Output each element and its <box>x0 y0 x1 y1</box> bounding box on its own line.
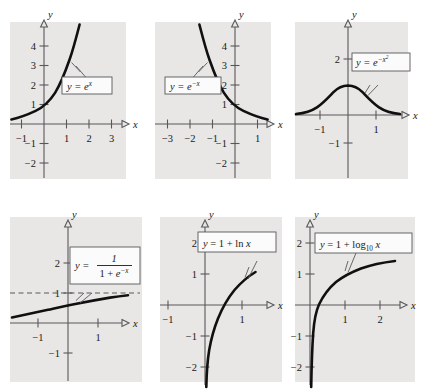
y-tick-label: 4 <box>222 41 228 52</box>
y-tick-label: −2 <box>216 158 227 169</box>
x-tick-label: −1 <box>314 124 325 135</box>
y-tick-label: −1 <box>291 331 302 342</box>
y-axis-label: y <box>313 209 319 220</box>
panel-5-plot: −1 1 2 1 −1 −2 x y y = 1 + ln x <box>145 195 290 391</box>
y-tick-label: −1 <box>49 348 60 359</box>
y-tick-label: −1 <box>329 138 340 149</box>
panel-1-plot: −1 1 2 3 −2 −1 1 2 3 4 x y y = ex <box>0 0 145 195</box>
function-label-logistic-lhs: y = <box>74 260 89 271</box>
y-tick-label: 1 <box>55 288 60 299</box>
y-tick-label: 1 <box>222 99 227 110</box>
y-tick-label: 3 <box>222 60 227 71</box>
x-axis-label: x <box>412 110 418 121</box>
x-axis-label: x <box>277 119 283 130</box>
x-axis-label: x <box>132 318 138 329</box>
x-tick-label: 3 <box>109 133 114 144</box>
y-tick-label: 2 <box>297 238 302 249</box>
figure-exponential-log-graphs: −1 1 2 3 −2 −1 1 2 3 4 x y y = ex <box>0 0 423 391</box>
y-tick-label: −1 <box>25 138 36 149</box>
y-tick-label: 2 <box>335 54 340 65</box>
panel-6-plot: 1 2 2 1 −1 −2 x y y = 1 + log10 x <box>290 195 423 391</box>
plot-background <box>10 217 142 382</box>
y-tick-label: 4 <box>31 41 37 52</box>
x-axis-label: x <box>277 300 283 311</box>
x-tick-label: −3 <box>162 133 173 144</box>
plot-background <box>155 22 271 179</box>
panel-exponential-negx: −3 −2 −1 1 −2 −1 1 2 3 4 x y y = e−x <box>145 0 290 195</box>
x-tick-label: 1 <box>239 314 244 325</box>
x-tick-label: 2 <box>86 133 91 144</box>
x-tick-label: 1 <box>64 133 69 144</box>
y-axis-label: y <box>238 9 244 20</box>
y-axis-label: y <box>208 209 214 220</box>
y-tick-label: −1 <box>216 138 227 149</box>
y-axis-label: y <box>47 9 53 20</box>
y-tick-label: 1 <box>192 269 197 280</box>
y-tick-label: −2 <box>186 362 197 373</box>
x-tick-label: 1 <box>373 124 378 135</box>
x-axis-label: x <box>132 119 138 130</box>
function-label-ln: y = 1 + ln x <box>202 238 251 249</box>
panel-natural-log: −1 1 2 1 −1 −2 x y y = 1 + ln x <box>145 195 290 391</box>
y-tick-label: −2 <box>291 362 302 373</box>
x-tick-label: −1 <box>32 332 43 343</box>
x-tick-label: 1 <box>95 332 100 343</box>
panel-2-plot: −3 −2 −1 1 −2 −1 1 2 3 4 x y y = e−x <box>145 0 290 195</box>
y-tick-label: −2 <box>25 158 36 169</box>
y-tick-label: 1 <box>297 269 302 280</box>
x-tick-label: 1 <box>255 133 260 144</box>
panel-log10: 1 2 2 1 −1 −2 x y y = 1 + log10 x <box>290 195 423 391</box>
y-tick-label: 2 <box>31 80 36 91</box>
x-tick-label: 1 <box>342 314 347 325</box>
y-tick-label: 2 <box>192 238 197 249</box>
y-axis-label: y <box>351 9 357 20</box>
panel-4-plot: −1 1 2 1 −1 x y y = 1 1 + e−x <box>0 195 145 391</box>
y-axis-label: y <box>71 209 77 220</box>
plot-background <box>10 22 126 179</box>
x-tick-label: 2 <box>377 314 382 325</box>
panel-exponential-ex: −1 1 2 3 −2 −1 1 2 3 4 x y y = ex <box>0 0 145 195</box>
panel-gaussian: −1 1 2 −1 x y y = e−x2 <box>290 0 423 195</box>
x-tick-label: −2 <box>184 133 195 144</box>
panel-3-plot: −1 1 2 −1 x y y = e−x2 <box>290 0 423 195</box>
y-tick-label: −1 <box>186 331 197 342</box>
panel-logistic: −1 1 2 1 −1 x y y = 1 1 + e−x <box>0 195 145 391</box>
y-tick-label: 1 <box>31 99 36 110</box>
y-tick-label: 3 <box>31 60 36 71</box>
function-label-logistic-numerator: 1 <box>111 253 116 264</box>
x-axis-label: x <box>410 300 416 311</box>
x-tick-label: −1 <box>162 314 173 325</box>
y-tick-label: 2 <box>55 258 60 269</box>
plot-background <box>295 22 408 179</box>
